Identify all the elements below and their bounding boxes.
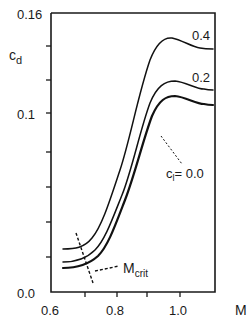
y-label-00: 0.0 (17, 286, 35, 301)
x-label-06: 0.6 (41, 303, 59, 318)
drag-divergence-chart: 0.16 0.1 0.0 cd 0.6 0.8 1.0 M 0.4 0.2 cl… (0, 0, 248, 322)
x-axis-label: M (235, 302, 247, 318)
curve-cl-0.0 (63, 96, 213, 268)
y-axis-label: cd (9, 47, 22, 66)
curve-label-02: 0.2 (192, 70, 210, 85)
y-label-01: 0.1 (17, 107, 35, 122)
curve-label-00: cl= 0.0 (166, 166, 204, 183)
curves (63, 38, 213, 268)
cl-leader-line (161, 136, 182, 164)
curve-labels: 0.4 0.2 cl= 0.0 Mcrit (123, 28, 210, 279)
mcrit-label: Mcrit (123, 260, 148, 279)
curve-label-04: 0.4 (192, 28, 210, 43)
x-label-10: 1.0 (169, 303, 187, 318)
y-label-016: 0.16 (17, 7, 42, 22)
plot-frame (51, 13, 215, 292)
x-label-08: 0.8 (106, 303, 124, 318)
